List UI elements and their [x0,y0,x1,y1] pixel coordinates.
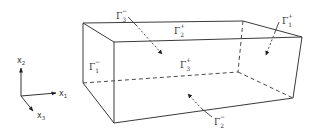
coordinate-axes: x2 x1 x3 [17,56,67,121]
edge-bottom-left [83,83,114,123]
pointer-gamma-1-plus [266,32,275,55]
label-gamma-3-plus: Γ3+ [180,56,191,72]
hidden-edge-back-bottom [83,72,238,83]
x2-axis-label: x2 [17,56,25,66]
label-gamma-1-minus: Γ1− [89,58,100,74]
label-gamma-1-plus: Γ1+ [282,12,293,28]
label-gamma-2-plus: Γ2+ [174,22,185,38]
hidden-edge-back-right [238,21,243,72]
edge-front-top [114,37,302,42]
x1-axis [21,93,56,96]
x3-axis [21,96,33,111]
face-pointers [128,17,279,117]
pointer-gamma-2-minus [188,94,202,109]
edge-top-left [83,23,114,42]
x3-axis-label: x3 [37,111,46,121]
label-gamma-3-minus: Γ3− [116,7,127,23]
hidden-edge-bottom-right [238,72,293,98]
label-gamma-2-minus: Γ2− [214,113,225,129]
edge-front-right [293,37,302,98]
edge-top-right [243,21,302,37]
x1-axis-label: x1 [59,89,67,99]
box [83,21,302,123]
boundary-box-diagram: x2 x1 x3 [0,0,312,138]
edge-back-top [83,21,243,23]
face-labels: Γ3− Γ2+ Γ1+ Γ1− Γ3+ Γ2− [89,7,293,129]
pointer-gamma-3-minus [136,25,162,54]
